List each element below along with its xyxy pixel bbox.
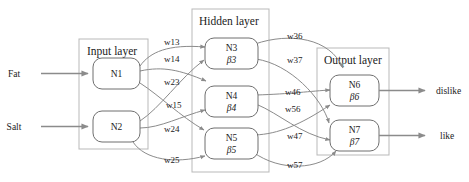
node-label-n3: N3: [226, 43, 238, 53]
weight-label-w25: w25: [164, 155, 180, 165]
node-label-n6: N6: [349, 80, 361, 90]
node-beta-n4: β4: [226, 103, 237, 113]
weight-label-w23: w23: [164, 77, 180, 87]
node-label-n7: N7: [349, 125, 361, 135]
weight-label-w37: w37: [287, 55, 303, 65]
weight-label-w15: w15: [166, 100, 182, 110]
node-label-n5: N5: [226, 133, 238, 143]
output-label-like: like: [440, 131, 454, 141]
input-label-fat: Fat: [8, 69, 21, 79]
node-label-n2: N2: [111, 122, 123, 132]
layer-title-output: Output layer: [324, 54, 382, 67]
node-beta-n3: β3: [226, 55, 237, 65]
weight-label-w46: w46: [285, 87, 301, 97]
node-beta-n6: β6: [349, 92, 360, 102]
weight-label-w56: w56: [285, 104, 301, 114]
layer-title-hidden: Hidden layer: [199, 15, 259, 28]
node-label-n1: N1: [111, 69, 123, 79]
weight-label-w36: w36: [287, 31, 303, 41]
weight-label-w13: w13: [164, 37, 180, 47]
weight-label-w47: w47: [287, 131, 303, 141]
node-beta-n5: β5: [226, 145, 237, 155]
diagram-canvas: Input layer Hidden layer Output layer Fa…: [0, 0, 469, 182]
node-beta-n7: β7: [349, 137, 361, 147]
layer-title-input: Input layer: [87, 45, 137, 58]
weight-label-w14: w14: [164, 54, 180, 64]
node-label-n4: N4: [226, 91, 238, 101]
input-label-salt: Salt: [7, 122, 22, 132]
weight-label-w24: w24: [164, 124, 180, 134]
neural-network-diagram: Input layer Hidden layer Output layer Fa…: [0, 0, 469, 182]
output-label-dislike: dislike: [436, 86, 461, 96]
weight-label-w57: w57: [287, 160, 303, 170]
